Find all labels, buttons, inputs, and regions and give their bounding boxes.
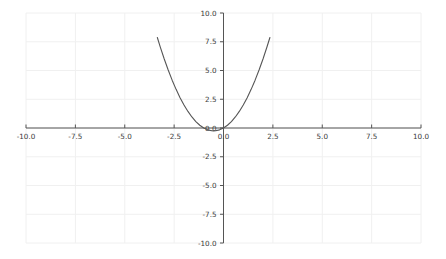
- x-tick-label: 10.0: [413, 132, 429, 141]
- x-tick-label: -5.0: [118, 132, 132, 141]
- x-tick-label: -10.0: [17, 132, 36, 141]
- chart-figure: -10.0-7.5-5.0-2.50.02.55.07.510.0 -10.0-…: [0, 0, 446, 259]
- y-tick-label: -10.0: [198, 239, 217, 248]
- x-tick-label: 5.0: [317, 132, 329, 141]
- y-tick-label: 7.5: [205, 37, 216, 46]
- x-tick-label: -2.5: [167, 132, 181, 141]
- y-tick-label: -7.5: [202, 210, 216, 219]
- y-tick-label: -2.5: [202, 152, 216, 161]
- x-tick-label: 2.5: [267, 132, 278, 141]
- y-tick-label: 2.5: [205, 95, 216, 104]
- x-tick-label: 0.0: [218, 132, 230, 141]
- y-tick-label: -5.0: [202, 181, 216, 190]
- y-tick-label: 5.0: [205, 66, 217, 75]
- x-tick-labels: -10.0-7.5-5.0-2.50.02.55.07.510.0: [17, 132, 430, 141]
- x-tick-label: 7.5: [366, 132, 377, 141]
- y-tick-label: 10.0: [200, 9, 216, 18]
- x-tick-label: -7.5: [68, 132, 82, 141]
- plot-canvas: -10.0-7.5-5.0-2.50.02.55.07.510.0 -10.0-…: [0, 0, 446, 259]
